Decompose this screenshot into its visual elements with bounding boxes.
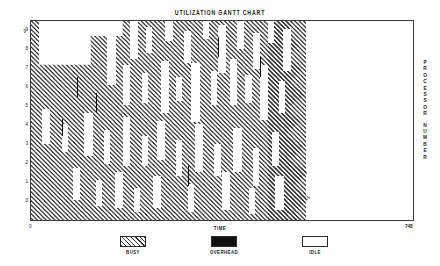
idle-gap [188,184,195,212]
idle-gap [222,172,230,210]
idle-gap [260,65,268,121]
idle-gap [283,29,291,71]
idle-gap [195,124,203,172]
y-tick-mark [30,51,31,52]
y-tick-label-1: 1 [18,178,28,185]
idle-gap [218,25,226,73]
overhead-mark [77,77,78,97]
idle-gap [123,117,131,167]
overhead-mark [62,119,63,137]
idle-gap [157,121,165,161]
y-axis-title: P R O C E S S O R N U M B E R [418,60,432,161]
idle-gap [176,140,182,176]
idle-gap [115,172,123,208]
y-tick-label-6: 6 [18,83,28,90]
y-tick-mark [30,164,31,165]
idle-gap [214,144,221,176]
idle-gap [279,81,285,113]
overhead-mark [218,37,219,57]
idle-gap [161,61,169,113]
idle-gap [191,63,199,123]
overhead-mark [188,166,189,186]
y-tick-mark [30,89,31,90]
idle-gap [253,148,259,186]
legend-swatch-busy [120,236,146,247]
idle-gap [146,27,152,53]
legend-item-idle: IDLE [291,236,339,254]
idle-gap [123,65,130,105]
y-tick-label-5: 5 [18,102,28,109]
idle-gap [268,21,274,43]
idle-gap [134,188,140,212]
idle-gap [104,130,111,164]
idle-gap [142,73,148,103]
idle-gap [237,21,244,49]
y-tick-label-3: 3 [18,140,28,147]
legend-swatch-overhead [211,236,237,247]
idle-gap [275,176,283,210]
y-tick-mark [30,146,31,147]
y-tick-mark [30,184,31,185]
idle-gap [211,71,217,105]
idle-gap [245,75,252,103]
idle-gap [153,176,161,208]
idle-gap [249,188,255,214]
idle-gap [203,21,209,39]
idle-gap [130,21,138,59]
legend-label-overhead: OVERHEAD [200,249,248,255]
idle-gap [233,128,241,172]
gantt-chart-figure: UTILIZATION GANTT CHART [0,0,440,266]
y-tick-mark [30,109,31,110]
idle-gap [73,168,80,200]
idle-gap [184,31,191,63]
y-tick-mark [30,202,31,203]
legend-item-overhead: OVERHEAD [200,236,248,254]
y-tick-label-4: 4 [18,121,28,128]
chart-legend: BUSY OVERHEAD IDLE [0,236,440,264]
plot-frame [30,20,414,221]
y-tick-label-9: 9 [18,26,28,33]
legend-label-busy: BUSY [109,249,157,255]
idle-gap [96,180,102,206]
idle-gap [84,113,92,157]
y-tick-label-0: 0 [18,197,28,204]
idle-gap [253,33,261,69]
y-tick-mark [30,71,31,72]
y-tick-label-2: 2 [18,159,28,166]
y-axis-title-letter: R [418,154,432,162]
idle-gap [176,77,182,101]
idle-gap [230,59,238,105]
overhead-mark [260,57,261,77]
idle-gap [142,136,148,166]
legend-item-busy: BUSY [109,236,157,254]
idle-gap [272,132,280,166]
x-axis-title: TIME [0,225,440,231]
y-tick-label-8: 8 [18,45,28,52]
y-tick-mark [30,126,31,127]
chart-title: UTILIZATION GANTT CHART [0,9,440,17]
idle-gap [42,109,50,145]
overhead-mark [96,93,97,113]
y-tick-mark [30,33,31,34]
idle-gap [165,21,173,41]
legend-label-idle: IDLE [291,249,339,255]
idle-gap [107,25,115,85]
legend-swatch-idle [302,236,328,247]
y-tick-label-7: 7 [18,64,28,71]
